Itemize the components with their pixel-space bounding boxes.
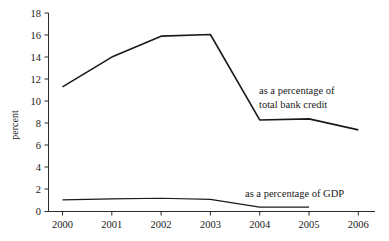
y-tick-label-16: 16 [31, 30, 42, 41]
y-tick-label-12: 12 [31, 74, 42, 85]
annotation-bank-credit-line-1: as a percentage of [259, 85, 335, 96]
y-tick-label-0: 0 [36, 206, 41, 217]
y-tick-label-18: 18 [31, 8, 42, 19]
y-tick-label-4: 4 [36, 162, 42, 173]
y-tick-label-2: 2 [36, 184, 41, 195]
x-tick-label-2002: 2002 [151, 219, 172, 230]
y-axis-title: percent [9, 110, 20, 140]
x-tick-label-2000: 2000 [52, 219, 73, 230]
y-tick-label-10: 10 [31, 96, 42, 107]
x-tick-label-2005: 2005 [299, 219, 320, 230]
chart-background [0, 0, 389, 241]
y-tick-label-14: 14 [31, 52, 42, 63]
annotation-gdp: as a percentage of GDP [245, 188, 344, 199]
y-tick-label-8: 8 [36, 118, 41, 129]
y-tick-label-6: 6 [36, 140, 41, 151]
x-tick-label-2004: 2004 [249, 219, 271, 230]
x-tick-label-2006: 2006 [348, 219, 369, 230]
line-chart-canvas: 18 16 14 12 10 8 6 4 2 0 percent 2000 20… [0, 0, 389, 241]
x-tick-label-2001: 2001 [101, 219, 122, 230]
annotation-bank-credit-line-2: total bank credit [259, 99, 327, 110]
chart-figure: 18 16 14 12 10 8 6 4 2 0 percent 2000 20… [0, 0, 389, 241]
x-tick-label-2003: 2003 [200, 219, 221, 230]
